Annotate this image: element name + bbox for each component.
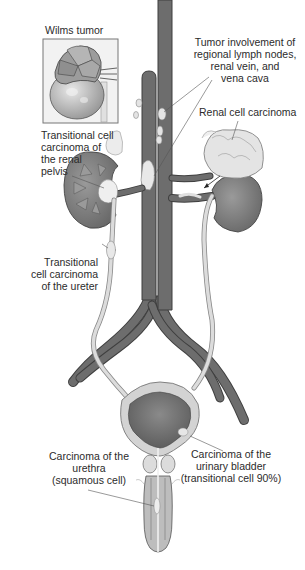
- label-renal-cell-carcinoma: Renal cell carcinoma: [199, 106, 296, 118]
- aorta: [158, 0, 172, 310]
- wilms-tumor-inset: [43, 39, 118, 123]
- great-vessels: [142, 0, 172, 310]
- label-ureter-carcinoma: Transitional cell carcinoma of the urete…: [20, 256, 98, 292]
- label-lymph-involvement: Tumor involvement of regional lymph node…: [185, 36, 305, 84]
- label-wilms-tumor: Wilms tumor: [45, 24, 103, 36]
- urinary-bladder: [121, 382, 200, 456]
- urethra-tumor: [154, 498, 160, 514]
- bladder-tumor: [178, 428, 188, 436]
- right-kidney: [202, 130, 263, 232]
- label-urethra-carcinoma: Carcinoma of the urethra (squamous cell): [44, 450, 134, 486]
- label-bladder-carcinoma: Carcinoma of the urinary bladder (transi…: [178, 448, 284, 484]
- ureter-tumor: [107, 241, 116, 259]
- prostate-urethra: [136, 448, 180, 552]
- label-renal-pelvis-carcinoma: Transitional cell carcinoma of the renal…: [41, 129, 114, 177]
